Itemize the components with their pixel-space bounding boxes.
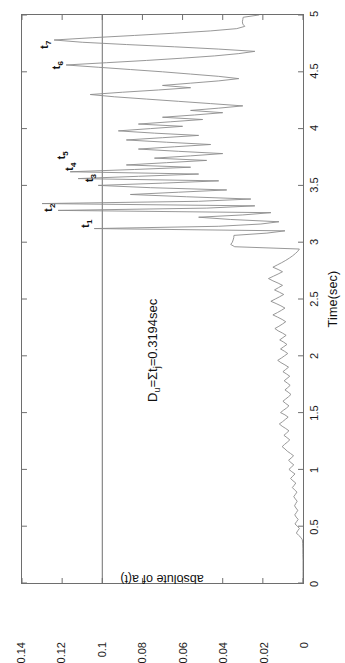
marker-label-t2: t2 — [43, 204, 57, 212]
y-tick-label-5: 0.1 — [96, 642, 107, 657]
x-tick-label-1: 0.5 — [309, 519, 320, 534]
x-tick-label-3: 1.5 — [309, 405, 320, 420]
y-axis-title: absolute of a(t) — [21, 572, 304, 586]
y-tick-label-1: 0.02 — [258, 642, 269, 663]
duration-formula-annotation: Du=Σtj=0.3194sec — [146, 299, 163, 402]
marker-label-t6: t6 — [51, 61, 65, 69]
signal-trace — [42, 15, 303, 583]
y-tick-label-7: 0.14 — [16, 642, 27, 663]
y-tick-label-6: 0.12 — [56, 642, 67, 663]
y-tick-label-4: 0.08 — [137, 642, 148, 663]
x-tick-label-2: 1 — [309, 467, 320, 473]
x-tick-label-7: 3.5 — [309, 177, 320, 192]
x-axis-title: Time(sec) — [326, 14, 340, 584]
y-tick-label-2: 0.04 — [218, 642, 229, 663]
x-tick-label-4: 2 — [309, 353, 320, 359]
x-tick-label-6: 3 — [309, 239, 320, 245]
x-tick-label-8: 4 — [309, 125, 320, 131]
x-tick-label-10: 5 — [309, 11, 320, 17]
x-tick-label-0: 0 — [309, 581, 320, 587]
x-tick-label-5: 2.5 — [309, 291, 320, 306]
y-tick-label-0: 0 — [299, 642, 310, 648]
y-tick-label-3: 0.06 — [177, 642, 188, 663]
x-tick-label-9: 4.5 — [309, 63, 320, 78]
marker-label-t4: t4 — [63, 163, 77, 171]
marker-label-t7: t7 — [39, 41, 53, 49]
marker-label-t5: t5 — [55, 151, 69, 159]
marker-label-t1: t1 — [79, 220, 93, 228]
marker-label-t3: t3 — [84, 174, 98, 182]
